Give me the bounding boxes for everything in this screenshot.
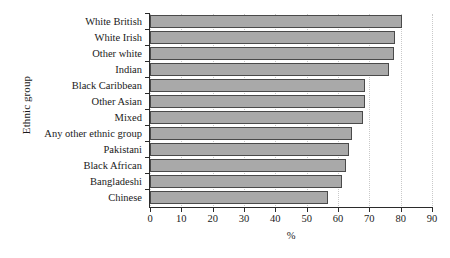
y-axis-tick — [145, 189, 150, 190]
bar — [150, 15, 402, 28]
x-axis-tick — [401, 208, 402, 212]
y-axis-tick-label: Black Caribbean — [72, 78, 142, 94]
y-axis-tick-label: White Irish — [94, 30, 142, 46]
y-axis-tick-label: Chinese — [108, 190, 142, 206]
x-axis-tick-label: 10 — [166, 213, 196, 224]
x-axis-tick-label: 70 — [354, 213, 384, 224]
x-axis-tick — [307, 208, 308, 212]
bar — [150, 79, 365, 92]
x-axis-tick — [369, 208, 370, 212]
y-axis-tick-label: Bangladeshi — [90, 174, 142, 190]
y-axis-tick-label: Pakistani — [104, 142, 143, 158]
x-axis-tick — [432, 208, 433, 212]
y-axis-tick-labels: White BritishWhite IrishOther whiteIndia… — [30, 14, 146, 206]
y-axis-tick — [145, 29, 150, 30]
x-axis-tick — [244, 208, 245, 212]
bar — [150, 191, 328, 204]
y-axis-tick-label: Other white — [92, 46, 142, 62]
y-axis-tick — [145, 141, 150, 142]
y-axis-tick — [145, 45, 150, 46]
bar — [150, 47, 394, 60]
bar — [150, 143, 349, 156]
y-axis-tick — [145, 93, 150, 94]
y-axis-tick-label: White British — [85, 14, 142, 30]
x-axis-tick — [213, 208, 214, 212]
gridline-80 — [401, 14, 402, 206]
x-axis-tick-label: 80 — [386, 213, 416, 224]
bar — [150, 159, 346, 172]
y-axis-tick — [145, 109, 150, 110]
y-axis-tick-label: Black African — [83, 158, 142, 174]
y-axis-tick — [145, 125, 150, 126]
gridline-90 — [432, 14, 433, 206]
bar-chart: Ethnic group White BritishWhite IrishOth… — [0, 0, 450, 258]
y-axis-tick — [145, 173, 150, 174]
x-axis-line — [149, 207, 433, 208]
y-axis-line — [149, 13, 150, 207]
x-axis-tick-label: 90 — [417, 213, 447, 224]
x-axis-tick-label: 20 — [198, 213, 228, 224]
x-axis-tick-label: 0 — [135, 213, 165, 224]
x-axis-tick-label: 60 — [323, 213, 353, 224]
y-axis-tick-label: Mixed — [115, 110, 142, 126]
plot-area — [150, 14, 432, 206]
x-axis-tick — [181, 208, 182, 212]
x-axis-tick-label: 50 — [292, 213, 322, 224]
y-axis-tick-label: Any other ethnic group — [44, 126, 142, 142]
y-axis-tick-label: Other Asian — [92, 94, 142, 110]
x-axis-tick — [150, 208, 151, 212]
x-axis-tick — [275, 208, 276, 212]
x-axis-tick — [338, 208, 339, 212]
x-axis-tick-label: 30 — [229, 213, 259, 224]
x-axis-title: % — [149, 230, 433, 241]
bar — [150, 31, 395, 44]
y-axis-tick-label: Indian — [115, 62, 142, 78]
y-axis-tick — [145, 77, 150, 78]
y-axis-tick — [145, 157, 150, 158]
y-axis-tick — [145, 13, 150, 14]
x-axis-tick-label: 40 — [260, 213, 290, 224]
bar — [150, 95, 365, 108]
bar — [150, 111, 363, 124]
bar — [150, 175, 342, 188]
bar — [150, 127, 352, 140]
y-axis-tick — [145, 61, 150, 62]
bar — [150, 63, 389, 76]
